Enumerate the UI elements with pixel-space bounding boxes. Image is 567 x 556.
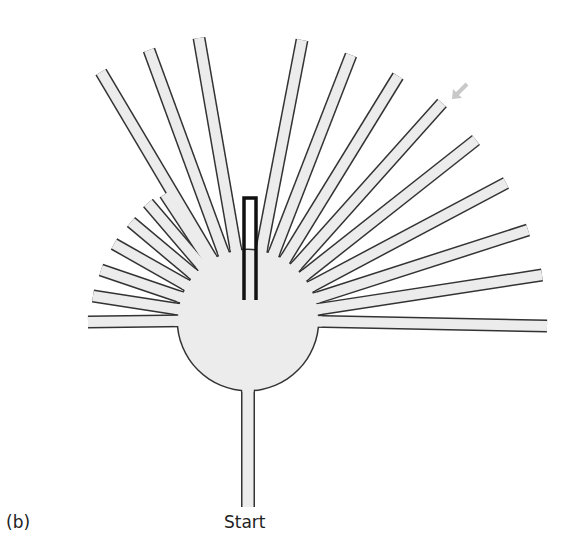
arm-joint bbox=[210, 256, 216, 266]
arm-joint bbox=[184, 283, 194, 289]
arm-joint bbox=[191, 272, 200, 280]
arm-joint bbox=[303, 285, 314, 291]
arm-joint bbox=[307, 297, 318, 301]
maze-arm bbox=[88, 321, 184, 322]
arm-joint bbox=[289, 265, 297, 274]
arm-joint bbox=[235, 247, 237, 259]
arm-joint bbox=[309, 309, 321, 311]
arm-joint bbox=[175, 309, 187, 311]
arm-joint bbox=[178, 296, 189, 300]
panel-label: (b) bbox=[6, 512, 30, 532]
arm-joint bbox=[297, 274, 306, 281]
arrow-shaft bbox=[456, 84, 467, 95]
start-label: Start bbox=[224, 512, 266, 532]
maze-arm bbox=[312, 321, 547, 326]
arm-joint bbox=[280, 257, 286, 267]
arm-joint bbox=[223, 251, 227, 262]
arm-joint bbox=[270, 251, 274, 262]
radial-arm-maze bbox=[0, 0, 567, 556]
arm-joint bbox=[260, 247, 262, 259]
